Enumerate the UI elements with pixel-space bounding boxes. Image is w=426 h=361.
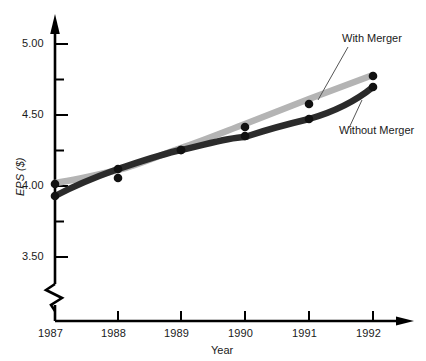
x-axis-title: Year <box>211 344 233 356</box>
x-tick-label-1989: 1989 <box>164 327 189 339</box>
y-axis-minor-ticks <box>55 80 64 222</box>
axis-lines <box>46 14 414 326</box>
marker-with-merger-1992 <box>369 72 378 81</box>
x-axis-ticks <box>118 311 373 321</box>
y-axis-title: EPS ($) <box>14 157 26 196</box>
eps-merger-line-chart: 5.00 4.50 4.00 3.50 EPS ($) 1987 1988 19… <box>0 0 426 361</box>
y-tick-label-500: 5.00 <box>22 37 44 49</box>
series-line-without-merger <box>55 87 373 196</box>
marker-without-merger-1992 <box>369 83 378 92</box>
marker-without-merger-1988 <box>114 165 123 174</box>
x-tick-label-1988: 1988 <box>101 327 126 339</box>
y-axis-arrowhead <box>50 14 60 34</box>
y-tick-label-450: 4.50 <box>22 108 44 120</box>
y-tick-label-350: 3.50 <box>22 250 44 262</box>
marker-with-merger-1987 <box>51 180 60 189</box>
marker-without-merger-1987 <box>51 192 60 201</box>
series-line-with-merger <box>55 75 373 183</box>
marker-with-merger-1988 <box>114 174 123 183</box>
annotation-with-merger: With Merger <box>342 32 402 44</box>
x-tick-label-1987: 1987 <box>38 327 63 339</box>
marker-with-merger-1990 <box>241 123 250 132</box>
marker-with-merger-1989 <box>177 146 186 155</box>
marker-with-merger-1991 <box>305 100 314 109</box>
chart-canvas <box>0 0 426 361</box>
x-axis-arrowhead <box>396 316 414 325</box>
x-tick-label-1991: 1991 <box>292 327 317 339</box>
marker-without-merger-1991 <box>305 115 314 124</box>
x-tick-label-1990: 1990 <box>228 327 253 339</box>
marker-without-merger-1990 <box>241 132 250 141</box>
annotation-without-merger: Without Merger <box>339 124 414 136</box>
x-tick-label-1992: 1992 <box>356 327 381 339</box>
